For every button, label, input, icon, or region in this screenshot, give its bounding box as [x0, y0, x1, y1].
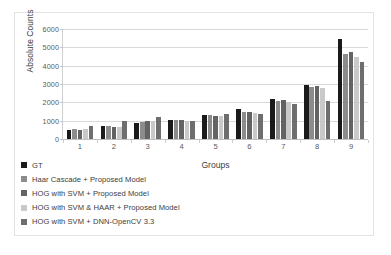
bar-group [266, 29, 300, 139]
bar [151, 121, 156, 139]
bar [122, 121, 127, 139]
y-tick-label: 2000 [43, 98, 59, 107]
bar [236, 109, 241, 139]
legend-swatch [21, 162, 27, 168]
bar-group [334, 29, 368, 139]
bar [202, 115, 207, 139]
bar [292, 104, 297, 139]
bar [360, 62, 365, 139]
bar [106, 126, 111, 139]
legend-swatch [21, 205, 27, 211]
bar [112, 127, 117, 139]
bar [174, 120, 179, 139]
bar [276, 101, 281, 139]
bar [326, 101, 331, 139]
bar [213, 116, 218, 139]
x-tick-mark [199, 140, 200, 143]
y-axis-title: Absolute Counts [25, 0, 35, 91]
bar [304, 85, 309, 139]
legend-swatch [21, 190, 27, 196]
bar [208, 115, 213, 139]
legend-label: Haar Cascade + Proposed Model [32, 175, 146, 184]
x-tick-mark [97, 140, 98, 143]
bar [286, 102, 291, 139]
bar-group [199, 29, 233, 139]
y-tick-label: 5000 [43, 43, 59, 52]
legend-item: GT [21, 158, 180, 172]
bar [224, 114, 229, 139]
y-tick-label: 0 [55, 135, 59, 144]
y-tick-label: 4000 [43, 61, 59, 70]
legend-item: HOG with SVM + Proposed Model [21, 186, 180, 200]
y-tick-label: 6000 [43, 25, 59, 34]
legend-swatch [21, 219, 27, 225]
x-tick-label: 8 [315, 142, 319, 151]
x-tick-label: 1 [78, 142, 82, 151]
x-tick-mark [232, 140, 233, 143]
x-tick-label: 4 [179, 142, 183, 151]
bar [349, 52, 354, 139]
bar [168, 120, 173, 139]
bar [270, 99, 275, 139]
y-tick-label: 1000 [43, 116, 59, 125]
legend-item: HOG with SVM + DNN-OpenCV 3.3 [21, 215, 180, 229]
bar [190, 121, 195, 139]
bar [253, 113, 258, 139]
x-tick-label: 2 [112, 142, 116, 151]
bar [72, 129, 77, 139]
y-tick-label: 3000 [43, 80, 59, 89]
bar [315, 86, 320, 139]
bar [134, 123, 139, 139]
x-tick-mark [266, 140, 267, 143]
bar [156, 117, 161, 139]
bar-group [131, 29, 165, 139]
bar [338, 39, 343, 139]
legend-item: Haar Cascade + Proposed Model [21, 172, 180, 186]
x-tick-mark [300, 140, 301, 143]
x-tick-mark [131, 140, 132, 143]
bar-group [300, 29, 334, 139]
legend-label: HOG with SVM + DNN-OpenCV 3.3 [32, 217, 154, 226]
legend-label: HOG with SVM & HAAR + Proposed Model [32, 203, 180, 212]
legend-label: HOG with SVM + Proposed Model [32, 189, 149, 198]
bar [67, 130, 72, 139]
bar [258, 114, 263, 139]
bar [145, 121, 150, 139]
bar [83, 129, 88, 139]
bar [89, 126, 94, 139]
bar [185, 121, 190, 139]
bar-group [63, 29, 97, 139]
x-tick-label: 6 [247, 142, 251, 151]
bar [320, 88, 325, 139]
x-tick-mark [63, 140, 64, 143]
x-tick-mark [334, 140, 335, 143]
bar [247, 112, 252, 139]
bar-group [165, 29, 199, 139]
plot-area: 0100020003000400050006000 123456789 [63, 29, 368, 139]
bar [101, 126, 106, 139]
bar [354, 57, 359, 139]
bar [140, 122, 145, 139]
bar [343, 54, 348, 139]
bar-group [232, 29, 266, 139]
bar [281, 100, 286, 139]
bar [219, 116, 224, 139]
bar [179, 120, 184, 139]
bar [117, 127, 122, 139]
bar [78, 130, 83, 139]
bar-group [97, 29, 131, 139]
x-tick-label: 7 [281, 142, 285, 151]
chart-legend: GTHaar Cascade + Proposed ModelHOG with … [21, 158, 180, 229]
x-tick-label: 3 [146, 142, 150, 151]
legend-swatch [21, 176, 27, 182]
legend-label: GT [32, 161, 43, 170]
bar [242, 112, 247, 139]
legend-item: HOG with SVM & HAAR + Proposed Model [21, 201, 180, 215]
chart-figure: Absolute Counts 010002000300040005000600… [0, 0, 391, 255]
x-tick-mark [165, 140, 166, 143]
x-tick-label: 9 [349, 142, 353, 151]
x-tick-mark [368, 140, 369, 143]
gridline [63, 139, 368, 140]
x-tick-label: 5 [213, 142, 217, 151]
bar [309, 87, 314, 139]
